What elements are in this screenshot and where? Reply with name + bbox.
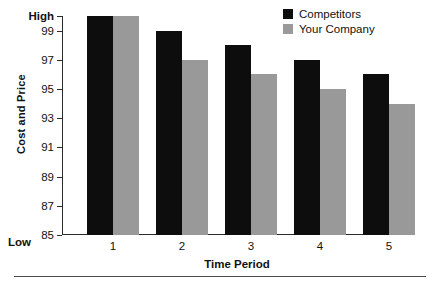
y-tick-mark: [57, 147, 62, 148]
y-axis-title: Cost and Price: [15, 39, 27, 189]
legend-swatch-icon: [283, 24, 293, 34]
x-axis-title: Time Period: [62, 258, 412, 270]
y-tick-mark: [57, 177, 62, 178]
y-axis-low-label: Low: [8, 236, 31, 248]
y-tick-mark: [57, 235, 62, 236]
y-tick-label: 93: [41, 112, 54, 124]
y-tick-mark: [57, 89, 62, 90]
x-tick-label-5: 5: [386, 240, 392, 252]
x-tick-label-4: 4: [317, 240, 323, 252]
bar-your-company: [251, 74, 277, 235]
bar-group: [156, 31, 208, 235]
y-tick-label: 99: [41, 25, 54, 37]
legend-label: Your Company: [299, 23, 375, 35]
bar-group: [363, 74, 415, 235]
y-tick-label: 97: [41, 54, 54, 66]
bar-competitors: [156, 31, 182, 235]
legend-swatch-icon: [283, 9, 293, 19]
bar-competitors: [225, 45, 251, 235]
y-tick-label: 89: [41, 171, 54, 183]
y-tick-mark: [57, 118, 62, 119]
y-tick-mark: [57, 31, 62, 32]
bar-group: [294, 60, 346, 235]
legend-item-your-company: Your Company: [283, 23, 375, 35]
chart-legend: Competitors Your Company: [283, 8, 375, 38]
y-axis-line: [62, 16, 63, 235]
bar-chart-figure: Cost and Price Low High 99 97 95 93 91: [0, 0, 440, 286]
legend-label: Competitors: [299, 8, 361, 20]
bar-your-company: [182, 60, 208, 235]
x-tick-label-3: 3: [248, 240, 254, 252]
bar-competitors: [87, 16, 113, 235]
bar-your-company: [113, 16, 139, 235]
bar-competitors: [294, 60, 320, 235]
y-tick-label: 95: [41, 83, 54, 95]
y-tick-mark: [57, 60, 62, 61]
bar-your-company: [389, 104, 415, 235]
bar-group: [225, 45, 277, 235]
y-tick-label: 91: [41, 141, 54, 153]
bar-competitors: [363, 74, 389, 235]
y-tick-label: High: [28, 10, 54, 22]
y-tick-mark: [57, 16, 62, 17]
bar-group: [87, 16, 139, 235]
bar-your-company: [320, 89, 346, 235]
y-tick-label: 87: [41, 200, 54, 212]
y-tick-mark: [57, 206, 62, 207]
plot-area: High 99 97 95 93 91 89 87: [62, 16, 412, 235]
x-tick-label-2: 2: [179, 240, 185, 252]
x-tick-label-1: 1: [110, 240, 116, 252]
y-tick-label: 85: [41, 229, 54, 241]
legend-item-competitors: Competitors: [283, 8, 375, 20]
bottom-divider: [14, 276, 426, 277]
